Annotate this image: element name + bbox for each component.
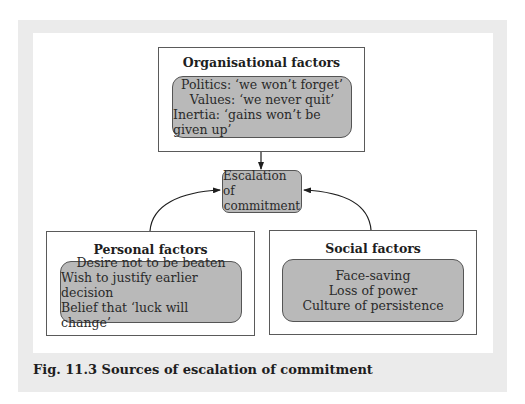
arrows [0,0,525,404]
figure-caption: Fig. 11.3 Sources of escalation of commi… [33,362,373,377]
arrow-social-to-escalation [304,190,371,230]
arrow-personal-to-escalation [150,190,220,231]
